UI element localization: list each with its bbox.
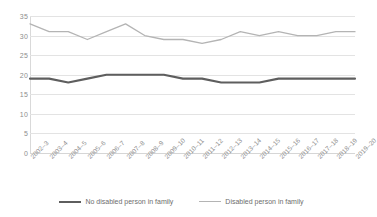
y-axis-tick-label: 15 xyxy=(2,91,28,98)
series-line xyxy=(30,75,355,83)
y-axis-tick-label: 20 xyxy=(2,71,28,78)
y-axis-tick-label: 0 xyxy=(2,150,28,157)
legend-item-label: No disabled person in family xyxy=(85,198,173,205)
y-axis-tick-label: 35 xyxy=(2,13,28,20)
plot-area xyxy=(30,16,355,153)
y-axis-tick-label: 25 xyxy=(2,52,28,59)
y-axis-tick-label: 10 xyxy=(2,110,28,117)
chart-legend: No disabled person in family Disabled pe… xyxy=(0,198,363,205)
legend-swatch-icon xyxy=(199,201,221,202)
y-axis: 05101520253035 xyxy=(0,16,28,153)
y-axis-tick-label: 30 xyxy=(2,32,28,39)
x-axis: 2002–32003–42004–52005–62006–72007–82008… xyxy=(30,155,355,200)
legend-item-no-disabled[interactable]: No disabled person in family xyxy=(59,198,173,205)
series-lines xyxy=(30,16,355,153)
series-line xyxy=(30,24,355,44)
y-axis-tick-label: 5 xyxy=(2,130,28,137)
legend-item-label: Disabled person in family xyxy=(225,198,303,205)
legend-item-disabled[interactable]: Disabled person in family xyxy=(199,198,303,205)
legend-swatch-icon xyxy=(59,201,81,203)
